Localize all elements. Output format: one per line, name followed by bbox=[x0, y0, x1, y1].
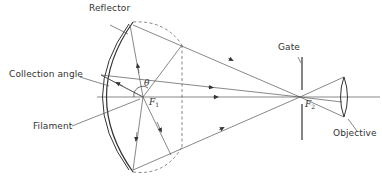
objective-label: Objective bbox=[333, 128, 377, 138]
theta-symbol: θ bbox=[144, 78, 149, 88]
optical-diagram bbox=[0, 0, 382, 178]
collection-angle-label: Collection angle bbox=[9, 69, 83, 79]
gate-label: Gate bbox=[278, 42, 300, 52]
focus-f1: F1 bbox=[149, 97, 159, 108]
reflector-label: Reflector bbox=[89, 3, 130, 13]
focus-f2: F2 bbox=[305, 99, 315, 110]
filament-label: Filament bbox=[33, 121, 72, 131]
reflector-ellipse-outline bbox=[133, 22, 182, 45]
